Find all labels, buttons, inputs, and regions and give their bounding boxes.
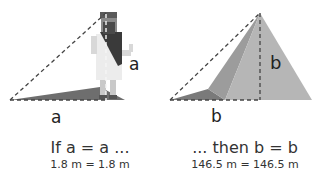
pyramid-shadow-label: b: [211, 108, 222, 125]
right-measure: 146.5 m = 146.5 m: [175, 158, 315, 171]
man-figure: [91, 12, 133, 99]
man-shadow-label: a: [51, 109, 61, 126]
left-caption: If a = a ...: [20, 138, 160, 157]
man-shadow: [10, 87, 125, 100]
right-caption: ... then b = b: [175, 138, 315, 157]
man-shadow-diagram: [10, 12, 133, 100]
pyramid-height-label: b: [270, 54, 281, 72]
pyramid-diagram: [170, 13, 312, 100]
left-measure: 1.8 m = 1.8 m: [20, 158, 160, 171]
man-height-label: a: [129, 56, 139, 73]
